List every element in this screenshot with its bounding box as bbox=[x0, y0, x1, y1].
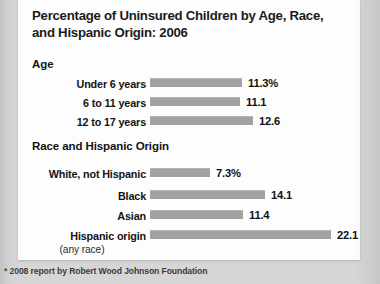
bar-hispanic-origin bbox=[150, 230, 331, 239]
bar-row-12-to-17: 12 to 17 years 12.6 bbox=[18, 114, 360, 130]
chart-title-line-2: and Hispanic Origin: 2006 bbox=[32, 25, 188, 40]
bar-value-6-to-11: 11.1 bbox=[246, 95, 266, 109]
bar-12-to-17 bbox=[150, 116, 253, 125]
bar-label-hispanic-origin: Hispanic origin bbox=[18, 229, 146, 243]
bar-value-asian: 11.4 bbox=[249, 208, 269, 222]
section-heading-age: Age bbox=[32, 58, 53, 70]
bar-6-to-11 bbox=[150, 97, 240, 106]
bar-label-12-to-17: 12 to 17 years bbox=[18, 115, 146, 129]
bar-asian bbox=[150, 210, 243, 219]
bar-white-not-hispanic bbox=[150, 168, 210, 177]
bar-value-hispanic-origin: 22.1 bbox=[337, 228, 358, 242]
bar-value-12-to-17: 12.6 bbox=[259, 114, 280, 128]
bar-row-hispanic-origin: Hispanic origin (any race) 22.1 bbox=[18, 228, 360, 244]
section-heading-race: Race and Hispanic Origin bbox=[32, 140, 169, 152]
bar-row-under-6: Under 6 years 11.3% bbox=[18, 76, 360, 92]
bar-label-asian: Asian bbox=[18, 209, 146, 223]
bar-label-6-to-11: 6 to 11 years bbox=[18, 96, 146, 110]
bar-label-white-not-hispanic: White, not Hispanic bbox=[18, 167, 146, 181]
bar-label-black: Black bbox=[18, 189, 146, 203]
bar-under-6 bbox=[150, 78, 242, 87]
bar-row-black: Black 14.1 bbox=[18, 188, 360, 204]
chart-footnote: * 2008 report by Robert Wood Johnson Fou… bbox=[4, 266, 207, 276]
bar-value-black: 14.1 bbox=[271, 188, 292, 202]
chart-title-line-1: Percentage of Uninsured Children by Age,… bbox=[32, 8, 323, 23]
bar-black bbox=[150, 190, 265, 199]
bar-row-6-to-11: 6 to 11 years 11.1 bbox=[18, 95, 360, 111]
bar-sublabel-hispanic-origin: (any race) bbox=[18, 244, 146, 255]
bar-row-asian: Asian 11.4 bbox=[18, 208, 360, 224]
bar-value-under-6: 11.3% bbox=[248, 76, 278, 90]
bar-value-white-not-hispanic: 7.3% bbox=[216, 166, 241, 180]
bar-row-white-not-hispanic: White, not Hispanic 7.3% bbox=[18, 166, 360, 182]
bar-label-under-6: Under 6 years bbox=[18, 77, 146, 91]
chart-card: Percentage of Uninsured Children by Age,… bbox=[18, 0, 360, 260]
chart-title: Percentage of Uninsured Children by Age,… bbox=[32, 8, 344, 41]
chart-page: Percentage of Uninsured Children by Age,… bbox=[0, 0, 380, 284]
